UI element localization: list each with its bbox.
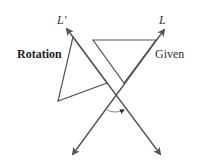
label-l-prime: L′ [56,13,67,27]
label-l: L [158,13,166,27]
rotation-angle-arc [107,110,124,112]
rotation-diagram: L′ L Rotation Given [0,0,197,160]
label-given: Given [155,47,184,61]
label-rotation: Rotation [17,47,62,61]
rotation-triangle [58,37,107,101]
line-l [73,30,164,154]
